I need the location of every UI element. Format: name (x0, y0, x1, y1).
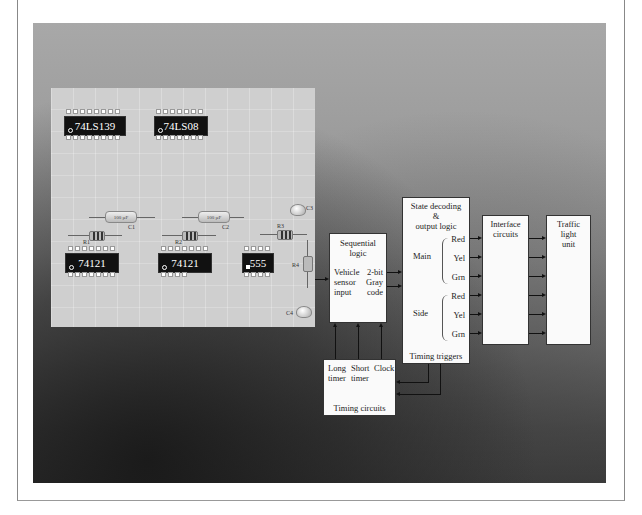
chip-74121-a: 74121 (65, 253, 119, 273)
gray-code-line (387, 272, 398, 273)
block-title: State decoding (403, 201, 469, 211)
signal-line (529, 314, 542, 315)
signal-line (529, 333, 542, 334)
input-label: sensor (334, 277, 356, 287)
capacitor-value: 100 µF (114, 215, 128, 220)
input-label: input (334, 287, 351, 297)
block-title: circuits (483, 229, 528, 239)
block-title: unit (547, 239, 590, 249)
side-grn-label: Grn (452, 329, 465, 339)
signal-line (470, 257, 478, 258)
capacitor-c2: 100 µF (198, 211, 230, 223)
output-label: code (367, 287, 383, 297)
capacitor-c4 (296, 306, 312, 318)
vehicle-sensor-line (315, 279, 325, 280)
sequential-logic-block: Sequential logic Vehicle sensor input 2-… (329, 233, 387, 323)
chip-74ls08: 74LS08 (154, 116, 208, 136)
arrow-up-icon (333, 323, 337, 327)
short-timer-label: Short (351, 363, 369, 373)
block-title: Sequential (330, 238, 386, 248)
chip-74ls139: 74LS139 (64, 116, 126, 136)
chip-pins-bottom (244, 272, 270, 277)
resistor-r4 (303, 256, 313, 272)
arrow-left-icon (396, 380, 400, 384)
clock-line (381, 327, 382, 359)
signal-line (529, 257, 542, 258)
arrow-up-icon (379, 323, 383, 327)
capacitor-label: C3 (306, 205, 313, 211)
signal-line (529, 295, 542, 296)
resistor-label: R4 (292, 262, 299, 268)
chip-pins-bottom (66, 135, 120, 140)
signal-line (529, 238, 542, 239)
signal-line (470, 276, 478, 277)
long-timer-label: Long (328, 363, 346, 373)
long-timer-line (335, 327, 336, 359)
clock-label: Clock (374, 363, 394, 373)
trigger-line (428, 364, 429, 382)
resistor-label: R2 (175, 239, 182, 245)
short-timer-line (358, 327, 359, 359)
capacitor-value: 100 µF (207, 215, 221, 220)
chip-74121-b: 74121 (158, 253, 212, 273)
arrow-up-icon (356, 323, 360, 327)
chip-pins-bottom (68, 272, 115, 277)
block-title: output logic (403, 221, 469, 231)
timing-circuits-label: Timing circuits (324, 403, 395, 413)
state-decoding-block: State decoding & output logic Main Red Y… (402, 197, 470, 364)
chip-pins-top (68, 246, 115, 251)
capacitor-label: C4 (286, 310, 293, 316)
chip-label: 74121 (78, 257, 106, 269)
block-title: Traffic (547, 219, 590, 229)
chip-pins-bottom (156, 135, 203, 140)
side-yel-label: Yel (454, 310, 465, 320)
signal-line (470, 314, 478, 315)
short-timer-label: timer (351, 373, 369, 383)
block-title: Interface (483, 219, 528, 229)
side-group-label: Side (413, 308, 428, 318)
arrow-left-icon (396, 392, 400, 396)
side-red-label: Red (451, 291, 465, 301)
signal-line (470, 295, 478, 296)
circuit-board: 74LS139 74LS08 100 µF C1 100 µF C2 C3 C4… (51, 88, 315, 327)
traffic-light-unit-block: Traffic light unit (546, 215, 591, 345)
resistor-r2 (182, 231, 198, 241)
main-red-label: Red (451, 234, 465, 244)
chip-pins-top (244, 246, 270, 251)
capacitor-label: C2 (222, 224, 229, 230)
block-title: logic (330, 248, 386, 258)
brace-icon (442, 238, 448, 284)
brace-icon (442, 295, 448, 341)
input-label: Vehicle (334, 267, 360, 277)
trigger-line (400, 394, 441, 395)
capacitor-label: C1 (128, 224, 135, 230)
output-label: Gray (366, 277, 383, 287)
main-yel-label: Yel (454, 253, 465, 263)
interface-circuits-block: Interface circuits (482, 215, 529, 345)
main-group-label: Main (413, 251, 431, 261)
main-grn-label: Grn (452, 272, 465, 282)
chip-label: 74121 (171, 257, 199, 269)
chip-pins-top (156, 109, 203, 114)
long-timer-label: timer (328, 373, 346, 383)
capacitor-c1: 100 µF (105, 211, 137, 223)
resistor-r3 (277, 230, 293, 240)
signal-line (470, 238, 478, 239)
block-title: & (403, 211, 469, 221)
gray-code-line (387, 286, 398, 287)
chip-pins-top (66, 109, 120, 114)
signal-line (529, 276, 542, 277)
capacitor-c3 (290, 204, 306, 216)
block-title: light (547, 229, 590, 239)
chip-label: 74LS139 (75, 120, 115, 132)
trigger-line (440, 364, 441, 394)
chip-label: 74LS08 (164, 120, 199, 132)
output-label: 2-bit (367, 267, 383, 277)
signal-line (470, 333, 478, 334)
chip-label: 555 (250, 257, 267, 269)
trigger-line (400, 382, 429, 383)
chip-555: 555 (242, 253, 274, 273)
chip-pins-bottom (161, 272, 187, 277)
timing-triggers-label: Timing triggers (403, 351, 469, 361)
chip-pins-top (161, 246, 208, 251)
